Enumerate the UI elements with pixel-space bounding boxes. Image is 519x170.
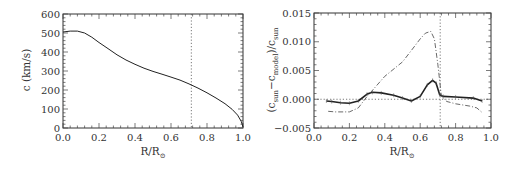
x-tick-label: 0.2: [341, 132, 357, 143]
y-tick-label: 300: [41, 66, 60, 77]
relative-difference-panel: 0.00.20.40.60.81.0−0.0050.0000.0050.0100…: [265, 8, 499, 161]
series-line: [326, 80, 482, 103]
x-tick-label: 1.0: [483, 132, 499, 143]
y-tick-label: 400: [41, 47, 60, 58]
x-tick-label: 0.2: [91, 132, 107, 143]
y-tick-label: 500: [41, 28, 60, 39]
right-x-axis-label: R/R⊙: [389, 145, 414, 160]
x-tick-label: 0.4: [127, 132, 143, 143]
x-tick-label: 0.4: [377, 132, 393, 143]
y-tick-label: 0.010: [282, 36, 311, 47]
x-tick-label: 0.0: [55, 132, 71, 143]
series-line: [63, 31, 243, 127]
sound-speed-panel: 0.00.20.40.60.81.00100200300400500600c (…: [20, 9, 251, 161]
left-y-axis-label: c (km/s): [20, 49, 32, 92]
left-x-axis-label: R/R⊙: [140, 145, 165, 160]
x-tick-label: 0.6: [163, 132, 179, 143]
right-y-axis-label: (csun−cmodel)/csun: [265, 27, 280, 113]
x-tick-label: 0.8: [199, 132, 215, 143]
series-line: [328, 31, 482, 112]
y-tick-label: 600: [41, 9, 60, 20]
x-tick-label: 1.0: [235, 132, 251, 143]
x-tick-label: 0.8: [448, 132, 464, 143]
y-tick-label: 0: [54, 123, 60, 134]
y-tick-label: 0.015: [282, 8, 311, 19]
x-tick-label: 0.0: [306, 132, 322, 143]
y-tick-label: 100: [41, 104, 60, 115]
figure: 0.00.20.40.60.81.00100200300400500600c (…: [0, 0, 519, 170]
plot-frame: [314, 13, 491, 128]
y-tick-label: −0.005: [274, 123, 311, 134]
x-tick-label: 0.6: [412, 132, 428, 143]
y-tick-label: 0.000: [282, 94, 311, 105]
y-tick-label: 200: [41, 85, 60, 96]
y-tick-label: 0.005: [282, 65, 311, 76]
